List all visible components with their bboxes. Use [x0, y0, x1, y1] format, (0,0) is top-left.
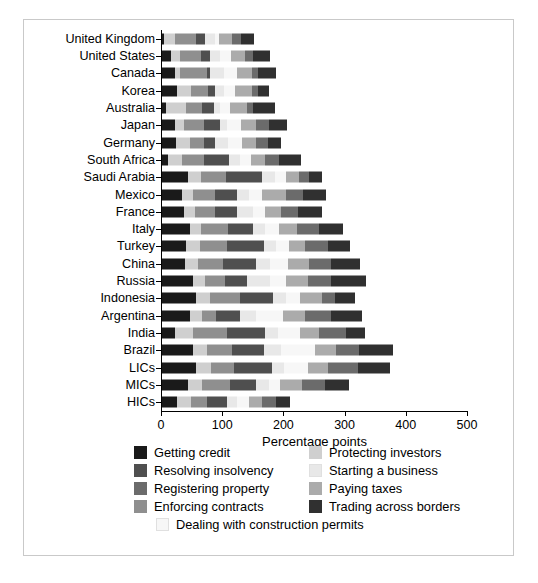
bar-segment — [162, 137, 176, 148]
bar-segment — [281, 345, 315, 356]
bar-segment — [162, 206, 184, 217]
y-axis-tick — [156, 246, 161, 247]
stacked-bar[interactable] — [162, 154, 301, 165]
stacked-bar[interactable] — [162, 120, 287, 131]
legend-item[interactable]: Protecting investors — [309, 445, 484, 460]
stacked-bar[interactable] — [162, 362, 390, 373]
stacked-bar[interactable] — [162, 397, 290, 408]
y-axis-tick — [156, 73, 161, 74]
x-axis-tick-label: 400 — [395, 418, 416, 432]
legend-item[interactable]: Starting a business — [309, 463, 484, 478]
stacked-bar[interactable] — [162, 380, 349, 391]
bar-segment — [162, 120, 175, 131]
stacked-bar[interactable] — [162, 33, 254, 44]
bar-segment — [237, 189, 249, 200]
stacked-bar[interactable] — [162, 172, 322, 183]
legend-item[interactable]: Paying taxes — [309, 481, 484, 496]
bar-segment — [319, 224, 343, 235]
y-axis-tick — [156, 108, 161, 109]
bar-segment — [275, 172, 286, 183]
bar-segment — [204, 154, 230, 165]
stacked-bar[interactable] — [162, 85, 269, 96]
legend-row: Registering propertyPaying taxes — [134, 481, 484, 496]
legend-swatch-icon — [309, 464, 322, 477]
bar-segment — [180, 50, 200, 61]
bar-segment — [215, 206, 236, 217]
bar-segment — [245, 50, 254, 61]
bar-segment — [256, 310, 283, 321]
bar-segment — [299, 172, 309, 183]
bar-segment — [200, 241, 227, 252]
bar-segment — [305, 241, 328, 252]
bar-segment — [256, 137, 268, 148]
x-axis-tick — [467, 411, 468, 416]
stacked-bar[interactable] — [162, 328, 365, 339]
stacked-bar[interactable] — [162, 102, 275, 113]
bar-segment — [268, 137, 280, 148]
bar-segment — [231, 50, 244, 61]
legend-row: Getting creditProtecting investors — [134, 445, 484, 460]
bar-segment — [358, 362, 390, 373]
bar-segment — [230, 102, 247, 113]
bar-segment — [289, 241, 305, 252]
y-axis-label-germany: Germany — [103, 136, 155, 150]
y-axis-tick — [156, 333, 161, 334]
bar-segment — [162, 380, 188, 391]
chart-legend: Getting creditProtecting investorsResolv… — [134, 445, 484, 532]
stacked-bar[interactable] — [162, 310, 362, 321]
stacked-bar[interactable] — [162, 345, 393, 356]
legend-item[interactable]: Trading across borders — [309, 499, 484, 514]
legend-row: Enforcing contractsTrading across border… — [134, 499, 484, 514]
bar-segment — [162, 68, 175, 79]
bar-segment — [300, 293, 322, 304]
stacked-bar[interactable] — [162, 224, 343, 235]
y-axis-label-china: China — [122, 257, 155, 271]
bar-segment — [195, 206, 215, 217]
legend-item[interactable]: Enforcing contracts — [134, 499, 309, 514]
bar-segment — [269, 120, 287, 131]
bar-segment — [162, 328, 175, 339]
bar-segment — [162, 345, 193, 356]
bar-segment — [227, 397, 236, 408]
bar-segment — [210, 293, 240, 304]
bar-segment — [280, 380, 302, 391]
legend-label: Registering property — [154, 481, 269, 496]
bar-segment — [232, 345, 264, 356]
bar-segment — [184, 206, 195, 217]
bar-segment — [196, 362, 211, 373]
bar-segment — [229, 154, 239, 165]
legend-row: Resolving insolvencyStarting a business — [134, 463, 484, 478]
bar-segment — [215, 85, 224, 96]
legend-swatch-icon — [309, 500, 322, 513]
stacked-bar[interactable] — [162, 258, 360, 269]
bar-segment — [190, 137, 203, 148]
stacked-bar[interactable] — [162, 50, 270, 61]
bar-segment — [234, 362, 272, 373]
stacked-bar[interactable] — [162, 206, 322, 217]
bar-segment — [166, 102, 187, 113]
legend-item[interactable]: Getting credit — [134, 445, 309, 460]
bar-segment — [177, 397, 191, 408]
y-axis-tick — [156, 368, 161, 369]
y-axis-label-italy: Italy — [132, 222, 155, 236]
stacked-bar[interactable] — [162, 68, 276, 79]
legend-item[interactable]: Resolving insolvency — [134, 463, 309, 478]
bar-segment — [162, 258, 185, 269]
stacked-bar[interactable] — [162, 241, 350, 252]
y-axis-tick — [156, 281, 161, 282]
legend-item[interactable]: Registering property — [134, 481, 309, 496]
stacked-bar[interactable] — [162, 137, 281, 148]
stacked-bar[interactable] — [162, 189, 326, 200]
bar-segment — [201, 224, 229, 235]
bar-segment — [175, 33, 195, 44]
legend-item[interactable]: Dealing with construction permits — [156, 517, 484, 532]
legend-swatch-icon — [134, 446, 147, 459]
bar-segment — [256, 258, 270, 269]
bar-segment — [191, 85, 208, 96]
stacked-bar[interactable] — [162, 276, 366, 287]
bar-segment — [232, 33, 241, 44]
bar-segment — [220, 120, 228, 131]
bar-segment — [256, 120, 269, 131]
y-axis-label-russia: Russia — [117, 274, 156, 288]
stacked-bar[interactable] — [162, 293, 355, 304]
